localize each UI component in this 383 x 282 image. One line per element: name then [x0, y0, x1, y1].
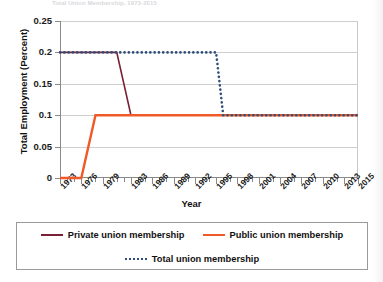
legend-swatch-total-icon	[125, 254, 147, 264]
series-line	[60, 52, 358, 115]
legend-row-secondary: Total union membership	[17, 247, 367, 271]
legend-label-public: Public union membership	[230, 230, 344, 240]
chart-legend: Private union membership Public union me…	[16, 222, 368, 270]
legend-swatch-public-icon	[203, 230, 225, 240]
legend-label-private: Private union membership	[68, 230, 185, 240]
legend-item-public[interactable]: Public union membership	[203, 230, 344, 240]
top-caption: Total Union Membership, 1973-2015	[52, 0, 262, 8]
legend-row-primary: Private union membership Public union me…	[17, 223, 367, 247]
legend-item-total[interactable]: Total union membership	[125, 254, 259, 264]
legend-swatch-private-icon	[41, 230, 63, 240]
chart-page: Total Union Membership, 1973-2015 00.050…	[0, 0, 383, 282]
line-chart: 00.050.10.150.20.25 19731976197919831986…	[0, 8, 383, 208]
legend-item-private[interactable]: Private union membership	[41, 230, 185, 240]
series-line	[60, 52, 358, 115]
series-line	[60, 115, 358, 178]
y-axis-title: Total Employment (Percent)	[18, 7, 29, 177]
series-lines	[0, 8, 383, 208]
legend-label-total: Total union membership	[152, 254, 259, 264]
x-axis-title: Year	[0, 198, 383, 209]
